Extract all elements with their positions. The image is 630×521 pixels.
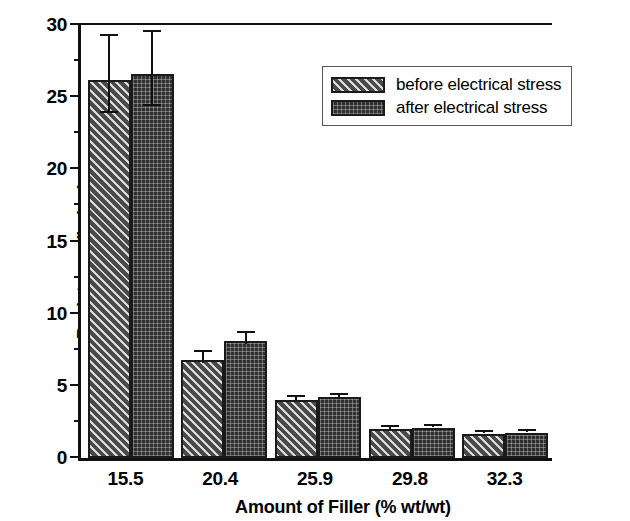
bar-group (84, 25, 178, 458)
x-tick-label: 20.4 (173, 468, 268, 494)
error-bar (295, 395, 297, 399)
error-bar-cap (330, 393, 348, 395)
legend-item-after: after electrical stress (331, 96, 561, 119)
y-tick-minor (74, 59, 81, 61)
error-bar (202, 350, 204, 363)
legend-item-before: before electrical stress (331, 73, 561, 96)
bar (224, 341, 267, 458)
legend-swatch-after-icon (331, 100, 385, 116)
legend-label-before: before electrical stress (396, 75, 561, 95)
y-tick-minor (74, 276, 81, 278)
error-bar (108, 34, 110, 113)
x-axis-tick-labels: 15.520.425.929.832.3 (78, 468, 552, 494)
error-bar-cap (518, 429, 536, 431)
x-tick-label: 29.8 (362, 468, 457, 494)
y-tick-minor (74, 420, 81, 422)
y-tick-label: 5 (57, 375, 67, 397)
error-bar-cap (143, 30, 161, 32)
bar (275, 400, 318, 458)
error-bar-cap (424, 424, 442, 426)
error-bar (526, 429, 528, 432)
error-bar (432, 424, 434, 428)
figure-canvas: Resistance (kohm) 051015202530 15.520.42… (0, 0, 630, 521)
y-tick-major (70, 384, 81, 386)
y-tick-major (70, 23, 81, 25)
y-tick-label: 10 (46, 303, 67, 325)
y-tick-label: 25 (46, 86, 67, 108)
error-bar (151, 30, 153, 106)
bar (412, 428, 455, 458)
bar (318, 397, 361, 458)
y-tick-label: 30 (46, 14, 67, 36)
y-tick-major (70, 312, 81, 314)
bar (181, 360, 224, 458)
error-bar-cap (287, 395, 305, 397)
y-tick-minor (74, 348, 81, 350)
bar (131, 74, 174, 458)
y-tick-major (70, 240, 81, 242)
y-tick-label: 20 (46, 158, 67, 180)
error-bar (389, 425, 391, 429)
y-tick-major (70, 167, 81, 169)
legend-swatch-before-icon (331, 77, 385, 93)
bar (462, 434, 505, 458)
error-bar-cap (194, 350, 212, 352)
y-tick-major (70, 95, 81, 97)
x-axis-title: Amount of Filler (% wt/wt) (0, 497, 630, 518)
error-bar-cap (475, 430, 493, 432)
error-bar-cap (143, 104, 161, 106)
legend-label-after: after electrical stress (396, 98, 547, 118)
bar (505, 433, 548, 458)
y-tick-minor (74, 203, 81, 205)
error-bar-cap (100, 34, 118, 36)
y-tick-minor (74, 131, 81, 133)
x-tick-label: 25.9 (268, 468, 363, 494)
error-bar (483, 430, 485, 433)
error-bar (245, 331, 247, 344)
y-tick-label: 0 (57, 447, 67, 469)
legend: before electrical stress after electrica… (322, 66, 572, 126)
y-tick-major (70, 456, 81, 458)
bar (369, 429, 412, 458)
y-tick-label: 15 (46, 231, 67, 253)
error-bar-cap (381, 425, 399, 427)
x-tick-label: 32.3 (457, 468, 552, 494)
bar-group (178, 25, 272, 458)
error-bar-cap (100, 111, 118, 113)
x-tick-label: 15.5 (78, 468, 173, 494)
error-bar-cap (237, 331, 255, 333)
error-bar (338, 393, 340, 397)
bar (88, 80, 131, 458)
